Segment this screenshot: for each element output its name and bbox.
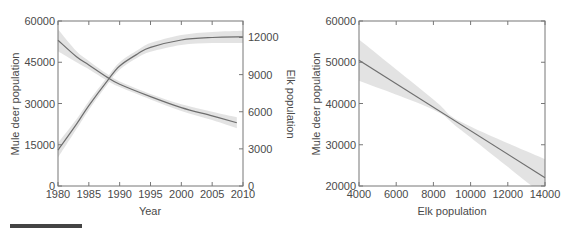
- left-panel: 1980198519901995200020052010 01500030000…: [9, 15, 297, 217]
- x-tick-label: 1985: [77, 188, 101, 200]
- confidence-band: [359, 40, 545, 197]
- x-tick-label: 6000: [384, 188, 408, 200]
- x-tick-label: 12000: [493, 188, 524, 200]
- y-tick-label: 60000: [24, 15, 55, 27]
- y-tick-label: 50000: [325, 56, 356, 68]
- y2-tick-label: 12000: [248, 31, 279, 43]
- x-tick-label: 14000: [530, 188, 561, 200]
- x-tick-label: 1990: [107, 188, 131, 200]
- elk-curve: [58, 37, 243, 150]
- confidence-bands: [58, 29, 243, 157]
- y-tick-label: 30000: [325, 139, 356, 151]
- y-tick-label: 20000: [325, 180, 356, 192]
- regression-line: [359, 60, 545, 178]
- y-axis-label: Mule deer population: [9, 53, 21, 156]
- y-axis-ticks: 015000300004500060000: [24, 15, 62, 192]
- x-tick-label: 10000: [455, 188, 486, 200]
- y-tick-label: 0: [49, 180, 55, 192]
- y2-tick-label: 3000: [248, 143, 272, 155]
- y2-tick-label: 0: [248, 180, 254, 192]
- regression-line: [359, 60, 545, 178]
- series-curves: [58, 37, 243, 150]
- x-axis-label: Year: [139, 205, 162, 217]
- x-tick-label: 1995: [138, 188, 162, 200]
- chart-figure: 1980198519901995200020052010 01500030000…: [0, 0, 567, 228]
- y2-tick-label: 9000: [248, 69, 272, 81]
- y2-tick-label: 6000: [248, 106, 272, 118]
- y2-axis-ticks: 030006000900012000: [239, 31, 279, 192]
- y-tick-label: 30000: [24, 98, 55, 110]
- x-tick-label: 2000: [169, 188, 193, 200]
- x-axis-label: Elk population: [417, 205, 486, 217]
- x-tick-label: 8000: [421, 188, 445, 200]
- y-tick-label: 60000: [325, 15, 356, 27]
- y-axis-label: Mule deer population: [310, 53, 322, 156]
- y2-axis-label: Elk population: [285, 69, 297, 138]
- right-panel: 400060008000100001200014000 200003000040…: [310, 15, 560, 217]
- y-tick-label: 40000: [325, 98, 356, 110]
- x-tick-label: 2005: [200, 188, 224, 200]
- scale-bar: [10, 224, 82, 228]
- y-tick-label: 15000: [24, 139, 55, 151]
- confidence-band: [359, 40, 545, 197]
- y-tick-label: 45000: [24, 56, 55, 68]
